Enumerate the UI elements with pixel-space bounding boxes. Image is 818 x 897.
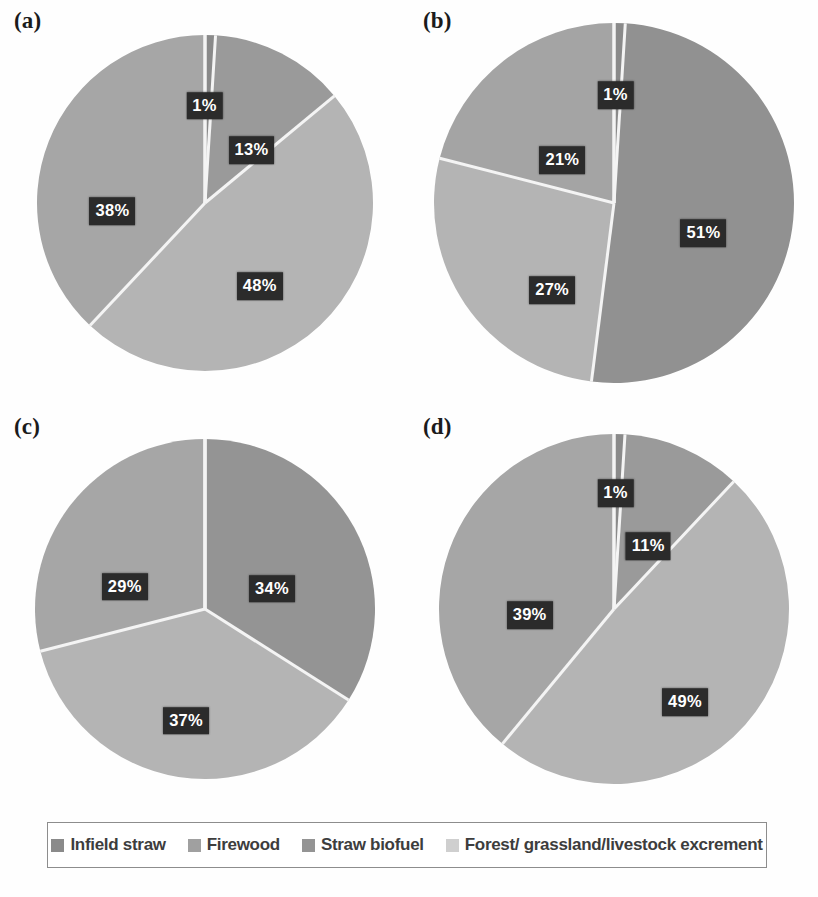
pie-wrap-d [409,406,818,812]
panel-b: (b) 1%51%27%21% [409,0,818,406]
pie-panels-grid: (a) 1%13%48%38% (b) 1%51%27%21% (c) 34%3… [0,0,818,812]
legend-item[interactable]: Forest/ grassland/livestock excrement [446,835,763,855]
panel-a: (a) 1%13%48%38% [0,0,409,406]
pie-wrap-a [0,0,409,406]
legend-item[interactable]: Infield straw [51,835,165,855]
pie-slice-percent-label: 48% [237,272,283,300]
pie-slice-percent-label: 39% [507,601,553,629]
pie-wrap-b [409,0,818,406]
pie-slice-percent-label: 51% [681,220,727,248]
pie-slice-percent-label: 13% [229,136,275,164]
pie-wrap-c [0,406,409,812]
pie-slice-percent-label: 34% [249,575,295,603]
legend-item-label: Forest/ grassland/livestock excrement [465,835,763,855]
chart-legend: Infield strawFirewoodStraw biofuelForest… [47,822,767,868]
legend-item[interactable]: Straw biofuel [302,835,424,855]
legend-item[interactable]: Firewood [188,835,280,855]
legend-swatch-forest-grassland [446,839,459,852]
pie-slice-percent-label: 37% [163,707,209,735]
pie-slice-percent-label: 21% [539,147,585,175]
pie-slice-percent-label: 1% [597,480,633,508]
legend-item-label: Straw biofuel [321,835,424,855]
pie-chart-figure: (a) 1%13%48%38% (b) 1%51%27%21% (c) 34%3… [0,0,818,897]
pie-slice-percent-label: 11% [626,532,671,560]
panel-d: (d) 1%11%49%39% [409,406,818,812]
legend-swatch-straw-biofuel [302,839,315,852]
legend-item-label: Firewood [207,835,280,855]
pie-slice-percent-label: 27% [529,277,575,305]
panel-c: (c) 34%37%29% [0,406,409,812]
pie-slice-percent-label: 38% [90,197,136,225]
pie-slice-percent-label: 1% [186,92,222,120]
pie-chart-a[interactable] [33,31,377,375]
legend-swatch-infield-straw [51,839,64,852]
legend-swatch-firewood [188,839,201,852]
legend-item-label: Infield straw [70,835,165,855]
pie-slice-percent-label: 29% [102,573,148,601]
pie-chart-b[interactable] [430,19,798,387]
pie-slice-percent-label: 1% [597,82,633,110]
pie-slice-percent-label: 49% [662,689,708,717]
